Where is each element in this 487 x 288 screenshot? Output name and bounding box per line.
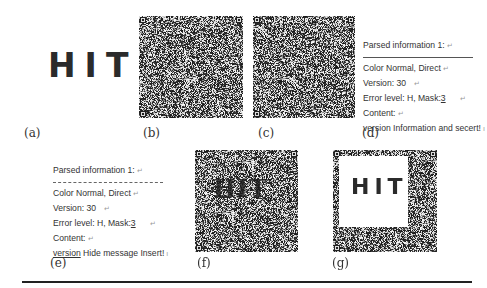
panel-d-divider (363, 57, 473, 58)
paragraph-mark-icon: ↵ (104, 205, 110, 212)
panel-d-mask-value: 3 (441, 93, 446, 103)
panel-c-qr-image (253, 16, 355, 118)
paragraph-mark-icon: ↵ (447, 42, 453, 49)
panel-a-caption: (a) (24, 126, 41, 140)
panel-g-hit-image-text: HIT (351, 174, 408, 199)
panel-e-version-line: Version: 30↵ (53, 201, 168, 216)
panel-g-caption: (g) (332, 256, 349, 270)
panel-e-error-level: Error level: H, Mask: (53, 218, 131, 228)
panel-e-message-line: version Hide message Insert!ı (53, 246, 168, 261)
panel-e-color-line: Color Normal, Direct↵ (53, 186, 168, 201)
panel-d-color-line: Color Normal, Direct↵ (363, 61, 485, 76)
panel-d-message-line: version Information and secert!ı (363, 121, 485, 136)
panel-f-caption: (f) (197, 256, 211, 270)
panel-d-content-label: Content: (363, 108, 396, 118)
panel-e-error-line: Error level: H, Mask:3↵ (53, 216, 168, 231)
figure-bottom-rule (22, 281, 472, 283)
panel-e-mask-value: 3 (131, 218, 136, 228)
panel-b-caption: (b) (143, 126, 160, 140)
panel-d-color: Color Normal, Direct (363, 63, 441, 73)
panel-d-content-line: Content:↵ (363, 106, 485, 121)
noise-texture (253, 16, 355, 118)
line-end-mark-icon: ı (166, 250, 168, 257)
panel-f-hit-overlay-text: HIT (213, 174, 268, 203)
paragraph-mark-icon: ↵ (133, 190, 139, 197)
panel-d-title-line: Parsed information 1:↵ (363, 38, 485, 53)
panel-e-divider (53, 182, 163, 183)
panel-c-caption: (c) (258, 126, 274, 140)
paragraph-mark-icon: ↵ (137, 167, 143, 174)
paragraph-mark-icon: ↵ (88, 235, 94, 242)
paragraph-mark-icon: ↵ (398, 110, 404, 117)
panel-b-qr-image (139, 16, 243, 118)
panel-d-version: Version: 30 (363, 78, 406, 88)
panel-d-error-line: Error level: H, Mask:3↵ (363, 91, 485, 106)
panel-e-message: Hide message Insert! (81, 248, 165, 258)
paragraph-mark-icon: ↵ (414, 80, 420, 87)
panel-e-caption: (e) (50, 256, 66, 270)
panel-e-parsed-info: Parsed information 1:↵ Color Normal, Dir… (53, 163, 168, 261)
panel-d-caption: (d) (362, 126, 379, 140)
paragraph-mark-icon: ↵ (460, 95, 466, 102)
panel-e-title-line: Parsed information 1:↵ (53, 163, 168, 178)
noise-texture (139, 16, 243, 118)
panel-a-hit-image-text: HIT (48, 46, 137, 85)
panel-e-content-line: Content:↵ (53, 231, 168, 246)
panel-e-content-label: Content: (53, 233, 86, 243)
panel-d-error-level: Error level: H, Mask: (363, 93, 441, 103)
paragraph-mark-icon: ↵ (150, 220, 156, 227)
paragraph-mark-icon: ↵ (443, 65, 449, 72)
panel-d-title: Parsed information 1: (363, 40, 445, 50)
panel-d-version-line: Version: 30↵ (363, 76, 485, 91)
panel-d-message: version Information and secert! (363, 123, 481, 133)
panel-e-color: Color Normal, Direct (53, 188, 131, 198)
panel-e-title: Parsed information 1: (53, 165, 135, 175)
line-end-mark-icon: ı (483, 125, 485, 132)
panel-d-parsed-info: Parsed information 1:↵ Color Normal, Dir… (363, 38, 485, 136)
panel-e-version: Version: 30 (53, 203, 96, 213)
